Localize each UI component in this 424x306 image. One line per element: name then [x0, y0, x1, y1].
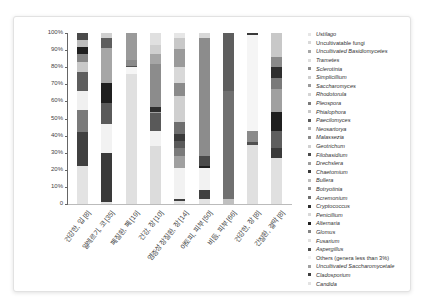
- legend-swatch-icon: [308, 50, 311, 53]
- bar-segment: [174, 67, 185, 82]
- legend-item: Drechslera: [308, 159, 418, 168]
- bar-segment: [77, 40, 88, 47]
- bar-segment: [271, 57, 282, 67]
- legend-item: Simplicillium: [308, 73, 418, 82]
- legend-label: Neosartorya: [316, 126, 346, 132]
- legend-item: Fusarium: [308, 236, 418, 245]
- bar-segment: [77, 132, 88, 166]
- legend-item: Uncultivatable fungi: [308, 39, 418, 48]
- legend-label: Geotrichum: [316, 143, 345, 149]
- x-axis: [67, 204, 292, 205]
- bar-segment: [101, 153, 112, 203]
- legend-swatch-icon: [308, 179, 311, 182]
- bar-segment: [77, 72, 88, 91]
- legend-label: Botryotinia: [316, 186, 342, 192]
- bar-segment: [77, 110, 88, 132]
- bar: [271, 33, 282, 204]
- bar-segment: [150, 113, 161, 130]
- y-tick-mark: [65, 136, 68, 137]
- bar-segment: [174, 134, 185, 141]
- bar-segment: [271, 131, 282, 148]
- bar-segment: [199, 156, 210, 166]
- legend-item: Sclerotinia: [308, 64, 418, 73]
- legend-swatch-icon: [308, 119, 311, 122]
- bar-segment: [223, 199, 234, 204]
- legend-label: Candida: [316, 281, 337, 287]
- bar-segment: [77, 47, 88, 54]
- legend-item: Glomus: [308, 228, 418, 237]
- legend-label: Phialophora: [316, 109, 346, 115]
- legend-swatch-icon: [308, 187, 311, 190]
- legend-label: Uncultivated Basidiomycetes: [316, 48, 388, 54]
- legend-swatch-icon: [308, 282, 311, 285]
- bar-segment: [199, 199, 210, 204]
- legend-item: Aspergillus: [308, 245, 418, 254]
- legend-swatch-icon: [308, 33, 311, 36]
- legend-swatch-icon: [308, 67, 311, 70]
- legend-swatch-icon: [308, 170, 311, 173]
- legend-label: Cladosporium: [316, 272, 351, 278]
- bar-segment: [101, 202, 112, 204]
- bar-segment: [126, 67, 137, 74]
- bar-segment: [174, 49, 185, 68]
- legend-label: Paecilomyces: [316, 117, 351, 123]
- legend-item: Neosartorya: [308, 125, 418, 134]
- bar-segment: [174, 83, 185, 97]
- legend-item: Trametes: [308, 56, 418, 65]
- y-tick-label: 50%: [33, 115, 63, 121]
- bar-segment: [150, 64, 161, 107]
- bar-segment: [174, 122, 185, 134]
- legend-label: Simplicillium: [316, 74, 347, 80]
- y-tick-mark: [65, 67, 68, 68]
- legend-label: Ustilago: [316, 31, 336, 37]
- y-tick-label: 30%: [33, 149, 63, 155]
- legend-label: Uncultivatable fungi: [316, 40, 365, 46]
- bar-segment: [101, 124, 112, 153]
- legend-label: Aspergillus: [316, 246, 343, 252]
- y-tick-label: 100%: [33, 29, 63, 35]
- y-tick-mark: [65, 204, 68, 205]
- legend-label: Alternaria: [316, 220, 340, 226]
- bar-segment: [126, 33, 137, 60]
- bar: [126, 33, 137, 204]
- bar-segment: [271, 112, 282, 131]
- y-tick-mark: [65, 119, 68, 120]
- legend-label: Penicillium: [316, 212, 343, 218]
- bar-segment: [77, 166, 88, 204]
- legend-item: Rhodotorula: [308, 90, 418, 99]
- legend-item: Bullera: [308, 176, 418, 185]
- legend-label: Pleospora: [316, 100, 341, 106]
- legend-swatch-icon: [308, 230, 311, 233]
- bar: [150, 33, 161, 204]
- legend-item: Cryptococcus: [308, 202, 418, 211]
- bar: [174, 33, 185, 204]
- legend-swatch-icon: [308, 145, 311, 148]
- bar-segment: [150, 146, 161, 204]
- y-tick-label: 80%: [33, 63, 63, 69]
- legend-label: Others (genera less than 3%): [316, 255, 389, 261]
- legend-label: Bullera: [316, 177, 333, 183]
- legend-swatch-icon: [308, 239, 311, 242]
- y-tick-label: 60%: [33, 97, 63, 103]
- legend-item: Geotrichum: [308, 142, 418, 151]
- bar-segment: [77, 91, 88, 110]
- legend-swatch-icon: [308, 110, 311, 113]
- legend-item: Filobasidium: [308, 150, 418, 159]
- legend-label: Saccharomyces: [316, 83, 356, 89]
- bar-segment: [101, 103, 112, 124]
- legend-swatch-icon: [308, 265, 311, 268]
- bar-segment: [77, 62, 88, 72]
- bar-segment: [101, 48, 112, 82]
- legend-label: Trametes: [316, 57, 339, 63]
- legend-swatch-icon: [308, 76, 311, 79]
- bar-segment: [199, 168, 210, 190]
- y-tick-label: 90%: [33, 46, 63, 52]
- bar: [199, 33, 210, 204]
- bar-segment: [150, 45, 161, 54]
- legend-label: Malassezia: [316, 134, 344, 140]
- bar: [247, 33, 258, 204]
- bar-segment: [101, 83, 112, 104]
- legend-swatch-icon: [308, 196, 311, 199]
- legend-swatch-icon: [308, 127, 311, 130]
- legend-item: Ustilago: [308, 30, 418, 39]
